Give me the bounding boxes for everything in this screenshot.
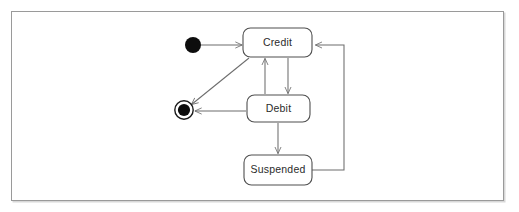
state-suspended[interactable]: Suspended bbox=[244, 155, 312, 185]
state-credit[interactable]: Credit bbox=[243, 28, 312, 57]
final-state-node bbox=[175, 101, 193, 119]
initial-state-node bbox=[185, 37, 201, 53]
state-debit[interactable]: Debit bbox=[247, 95, 310, 122]
state-suspended-label: Suspended bbox=[251, 163, 306, 175]
state-debit-label: Debit bbox=[266, 102, 292, 114]
state-machine-diagram: Credit Debit Suspended bbox=[0, 0, 519, 212]
transition-suspended-to-credit bbox=[312, 45, 344, 170]
diagram-canvas: Credit Debit Suspended bbox=[0, 0, 519, 212]
transition-credit-to-final bbox=[192, 58, 250, 105]
state-credit-label: Credit bbox=[263, 36, 292, 48]
